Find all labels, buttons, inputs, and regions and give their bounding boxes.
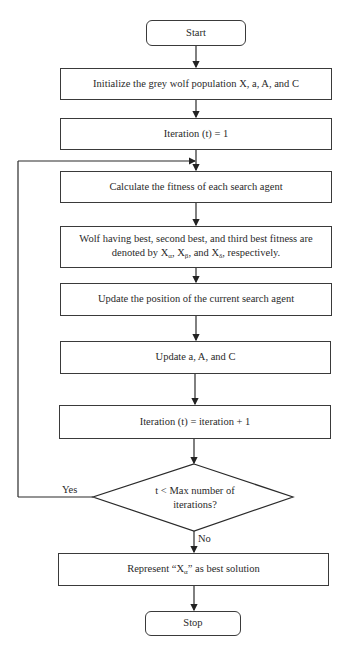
rank-line-1: Wolf having best, second best, and third…: [79, 232, 312, 246]
update-position-label: Update the position of the current searc…: [98, 292, 294, 306]
iteration-init-label: Iteration (t) = 1: [164, 127, 229, 141]
decision-line-2: iterations?: [120, 498, 270, 512]
rank-text: denoted by X: [112, 247, 169, 258]
decision-line-1: t < Max number of: [120, 484, 270, 498]
yes-label: Yes: [62, 484, 77, 495]
iteration-increment-label: Iteration (t) = iteration + 1: [140, 415, 251, 429]
rank-text: , respectively.: [222, 247, 280, 258]
update-params-label: Update a, A, and C: [156, 350, 236, 364]
iteration-init-node: Iteration (t) = 1: [60, 118, 332, 150]
start-node: Start: [146, 20, 246, 46]
decision-node: t < Max number of iterations?: [120, 484, 270, 512]
result-text: ” as best solution: [188, 563, 260, 574]
stop-label: Stop: [183, 616, 202, 630]
init-node: Initialize the grey wolf population X, a…: [60, 68, 332, 100]
init-label: Initialize the grey wolf population X, a…: [93, 77, 299, 91]
update-params-node: Update a, A, and C: [60, 341, 331, 374]
rank-text: , and X: [188, 247, 219, 258]
fitness-node: Calculate the fitness of each search age…: [60, 171, 332, 203]
result-node: Represent “Xα” as best solution: [58, 553, 329, 586]
rank-wolves-node: Wolf having best, second best, and third…: [60, 226, 332, 268]
fitness-label: Calculate the fitness of each search age…: [109, 180, 282, 194]
result-text: Represent “X: [127, 563, 184, 574]
stop-node: Stop: [145, 611, 241, 636]
rank-line-2: denoted by Xα, Xβ, and Xδ, respectively.: [112, 246, 281, 261]
result-label: Represent “Xα” as best solution: [127, 562, 260, 577]
rank-text: , X: [172, 247, 185, 258]
update-position-node: Update the position of the current searc…: [60, 283, 332, 316]
start-label: Start: [186, 26, 206, 40]
iteration-increment-node: Iteration (t) = iteration + 1: [59, 405, 331, 439]
no-label: No: [198, 533, 211, 544]
